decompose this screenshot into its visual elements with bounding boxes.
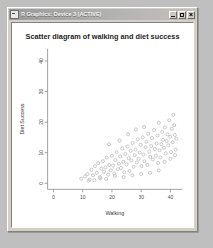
data-points — [80, 113, 178, 182]
data-point — [95, 171, 98, 174]
data-point — [148, 150, 151, 153]
data-point — [173, 124, 176, 127]
data-point — [121, 147, 124, 150]
data-point — [122, 160, 125, 163]
data-point — [163, 126, 166, 129]
data-point — [117, 162, 120, 165]
data-point — [97, 162, 100, 165]
data-point — [125, 163, 128, 166]
data-point — [130, 159, 133, 162]
data-point — [144, 146, 147, 149]
maximize-button[interactable] — [178, 11, 186, 19]
data-point — [136, 138, 139, 141]
y-tick-label: 40 — [39, 58, 44, 64]
data-point — [109, 169, 112, 172]
y-axis: 010203040 — [39, 58, 47, 185]
plot-canvas: Scatter diagram of walking and diet succ… — [11, 22, 194, 228]
data-point — [166, 133, 169, 136]
data-point — [126, 133, 129, 136]
data-point — [119, 166, 122, 169]
scatter-plot: Scatter diagram of walking and diet succ… — [12, 23, 193, 227]
data-point — [170, 127, 173, 130]
data-point — [175, 137, 178, 140]
data-point — [103, 170, 106, 173]
data-point — [151, 158, 154, 161]
data-point — [143, 125, 146, 128]
data-point — [154, 154, 157, 157]
data-point — [127, 157, 130, 160]
data-point — [149, 155, 152, 158]
data-point — [158, 149, 161, 152]
data-point — [169, 157, 172, 160]
x-axis-label: Walking — [105, 210, 124, 216]
data-point — [139, 143, 142, 146]
y-tick-label: 30 — [39, 89, 44, 95]
data-point — [86, 173, 89, 176]
data-point — [142, 153, 145, 156]
data-point — [134, 128, 137, 131]
y-axis-label: Diet Success — [19, 103, 25, 134]
data-point — [124, 152, 127, 155]
data-point — [157, 121, 160, 124]
data-point — [118, 139, 121, 142]
chart-title: Scatter diagram of walking and diet succ… — [26, 32, 180, 41]
data-point — [157, 169, 160, 172]
data-point — [107, 143, 110, 146]
data-point — [110, 154, 113, 157]
data-point — [135, 161, 138, 164]
data-point — [150, 144, 153, 147]
data-point — [108, 163, 111, 166]
data-point — [131, 141, 134, 144]
data-point — [150, 136, 153, 139]
data-point — [165, 140, 168, 143]
data-point — [129, 149, 132, 152]
y-tick-label: 10 — [39, 150, 44, 156]
window-titlebar[interactable]: R Graphics: Device 3 (ACTIVE) — [9, 9, 196, 20]
data-point — [141, 136, 144, 139]
data-point — [105, 177, 108, 180]
data-point — [101, 160, 104, 163]
x-tick-label: 0 — [52, 195, 55, 200]
data-point — [114, 158, 117, 161]
r-graphics-icon — [10, 10, 19, 19]
y-tick-label: 20 — [39, 119, 44, 125]
data-point — [91, 174, 94, 177]
x-tick-label: 20 — [109, 195, 115, 200]
data-point — [128, 169, 131, 172]
data-point — [168, 119, 171, 122]
data-point — [153, 147, 156, 150]
data-point — [119, 155, 122, 158]
minimize-button[interactable] — [169, 11, 177, 19]
data-point — [116, 168, 119, 171]
data-point — [93, 179, 96, 182]
data-point — [140, 173, 143, 176]
data-point — [156, 134, 159, 137]
y-tick-label: 0 — [39, 182, 44, 185]
data-point — [153, 129, 156, 132]
data-point — [126, 145, 129, 148]
data-point — [112, 164, 115, 167]
data-point — [162, 138, 165, 141]
x-tick-label: 10 — [80, 195, 86, 200]
data-point — [159, 156, 162, 159]
window-controls — [169, 11, 195, 19]
data-point — [105, 156, 108, 159]
data-point — [107, 173, 110, 176]
data-point — [148, 171, 151, 174]
data-point — [167, 144, 170, 147]
data-point — [173, 133, 176, 136]
x-tick-label: 30 — [138, 195, 144, 200]
data-point — [171, 141, 174, 144]
data-point — [169, 151, 172, 154]
data-point — [138, 151, 141, 154]
window-title: R Graphics: Device 3 (ACTIVE) — [21, 11, 169, 18]
x-tick-label: 40 — [168, 195, 174, 200]
close-icon[interactable] — [187, 11, 195, 19]
data-point — [133, 154, 136, 157]
data-point — [162, 146, 165, 149]
data-point — [143, 160, 146, 163]
data-point — [146, 163, 149, 166]
data-point — [147, 132, 150, 135]
data-point — [123, 171, 126, 174]
data-point — [80, 177, 83, 180]
